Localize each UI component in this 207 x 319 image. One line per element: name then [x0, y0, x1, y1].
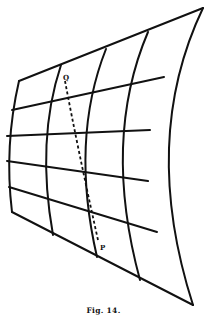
u-line-1 [12, 77, 164, 110]
surface-boundary [9, 8, 203, 305]
surface-grid-diagram: Q P [0, 0, 207, 319]
figure-caption: Fig. 14. [0, 306, 207, 315]
geodesic-path-q-to-p [65, 81, 98, 240]
bottom-edge [12, 212, 193, 305]
u-line-3 [7, 161, 148, 181]
v-line-3 [123, 32, 148, 280]
v-line-1 [46, 65, 61, 235]
v-line-2 [85, 49, 106, 257]
point-p-label: P [100, 243, 106, 252]
v-parametric-lines [46, 32, 148, 280]
left-edge [9, 81, 19, 212]
top-edge [19, 8, 203, 81]
right-edge [169, 8, 203, 305]
point-q-label: Q [63, 73, 69, 82]
u-line-2 [7, 130, 150, 136]
u-line-4 [9, 187, 157, 232]
